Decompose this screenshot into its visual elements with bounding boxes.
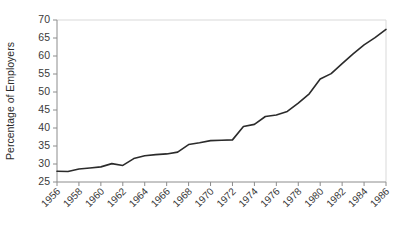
y-tick-label: 50 [38,85,50,97]
x-tick-label: 1956 [39,185,63,209]
x-tick-label: 1978 [280,185,304,209]
line-chart: 2530354045505560657019561958196019621964… [0,0,406,228]
y-tick-label: 60 [38,49,50,61]
y-tick-label: 30 [38,157,50,169]
data-series-line [57,29,386,171]
y-tick-label: 70 [38,13,50,25]
y-tick-label: 65 [38,31,50,43]
chart-container: 2530354045505560657019561958196019621964… [0,0,406,228]
x-tick-label: 1984 [346,185,370,209]
x-tick-label: 1980 [302,185,326,209]
plot-area: 2530354045505560657019561958196019621964… [4,13,392,209]
y-tick-label: 40 [38,121,50,133]
x-tick-label: 1968 [171,185,195,209]
y-tick-label: 45 [38,103,50,115]
x-tick-label: 1976 [258,185,282,209]
x-tick-label: 1974 [236,185,260,209]
y-tick-label: 35 [38,139,50,151]
x-tick-label: 1986 [368,185,392,209]
y-axis-title: Percentage of Employers [4,42,16,160]
x-tick-label: 1966 [149,185,173,209]
y-tick-label: 25 [38,175,50,187]
x-tick-label: 1970 [192,185,216,209]
x-tick-label: 1964 [127,185,151,209]
x-tick-label: 1958 [61,185,85,209]
x-tick-label: 1960 [83,185,107,209]
plot-border [57,20,386,182]
x-tick-label: 1982 [324,185,348,209]
x-tick-label: 1972 [214,185,238,209]
x-tick-label: 1962 [105,185,129,209]
y-tick-label: 55 [38,67,50,79]
